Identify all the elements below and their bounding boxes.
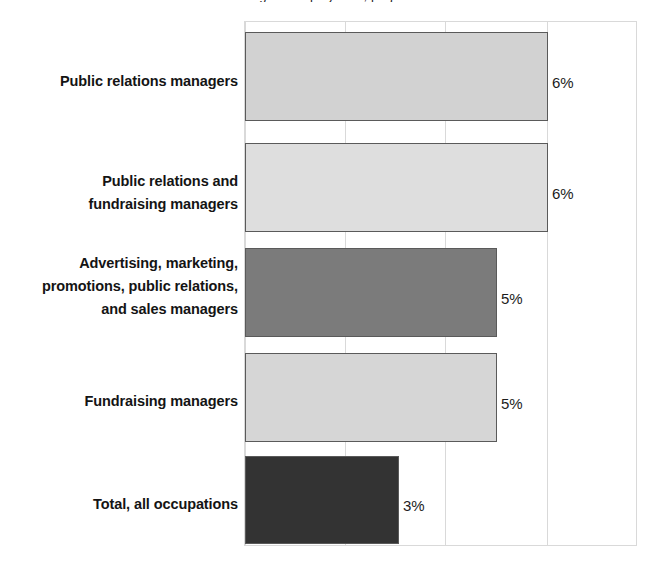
category-label-line: Advertising, marketing, [0, 252, 238, 275]
bar-total-all-occupations [245, 456, 399, 544]
value-label-fundraising-managers: 5% [501, 396, 523, 411]
bar-fundraising-managers [245, 353, 497, 442]
bar-public-relations-managers [245, 32, 548, 121]
category-label-public-relations-managers: Public relations managers [0, 70, 238, 93]
category-label-total-all-occupations: Total, all occupations [0, 493, 238, 516]
category-label-advertising-marketing-promotions-public-relations-and-sales-managers: Advertising, marketing, promotions, publ… [0, 252, 238, 321]
category-label-public-relations-and-fundraising-managers: Public relations and fundraising manager… [0, 170, 238, 216]
bar-public-relations-and-fundraising-managers [245, 143, 548, 232]
category-label-line: Public relations and [0, 170, 238, 193]
bar-advertising-marketing-promotions-public-relations-and-sales-managers [245, 248, 497, 337]
category-label-line: Total, all occupations [0, 493, 238, 516]
category-axis: Public relations managers Public relatio… [0, 20, 238, 546]
value-label-advertising-marketing-promotions-public-relations-and-sales-managers: 5% [501, 291, 523, 306]
value-label-total-all-occupations: 3% [403, 498, 425, 513]
value-label-public-relations-managers: 6% [552, 75, 574, 90]
category-label-line: and sales managers [0, 298, 238, 321]
bar-chart: Percent change in employment, projected … [0, 0, 659, 564]
category-label-fundraising-managers: Fundraising managers [0, 390, 238, 413]
plot-area [244, 21, 637, 546]
category-label-line: fundraising managers [0, 193, 238, 216]
category-label-line: Fundraising managers [0, 390, 238, 413]
chart-title: Percent change in employment, projected … [0, 0, 659, 2]
value-label-public-relations-and-fundraising-managers: 6% [552, 186, 574, 201]
category-label-line: Public relations managers [0, 70, 238, 93]
category-label-line: promotions, public relations, [0, 275, 238, 298]
